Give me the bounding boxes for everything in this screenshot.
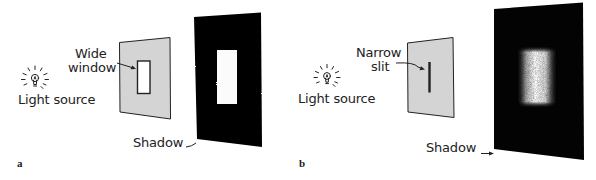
diffuse-light-band (516, 46, 558, 108)
narrow-slit-aperture (428, 62, 430, 93)
opaque-screen (408, 38, 455, 118)
light-bulb-icon (22, 66, 49, 89)
light-bulb-icon (314, 65, 340, 87)
light-source-label: Light source (298, 92, 375, 105)
wide-window-aperture (138, 61, 151, 94)
shadow-label: Shadow (133, 136, 183, 149)
light-source-label: Light source (18, 93, 95, 106)
bright-rectangle (217, 50, 237, 104)
shadow-pointer (186, 143, 196, 147)
aperture-label-line2: slit (371, 60, 389, 73)
panel-letter: b (299, 157, 305, 169)
panel-b (314, 3, 584, 161)
aperture-label-line1: Wide (75, 47, 107, 60)
diffraction-diagram (0, 0, 596, 180)
aperture-label-line1: Narrow (356, 46, 401, 59)
shadow-label: Shadow (426, 141, 476, 154)
aperture-label-line2: window (68, 61, 116, 74)
panel-letter: a (17, 157, 23, 169)
panel-a (22, 13, 263, 148)
